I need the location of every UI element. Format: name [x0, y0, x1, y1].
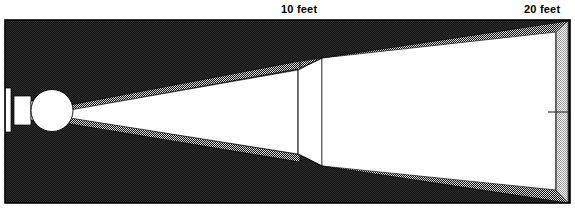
lamp-bulb	[31, 90, 73, 132]
light-beam-spread-illustration	[0, 0, 575, 215]
figure-root: 10 feet 20 feet	[0, 0, 575, 215]
measurement-plane-10ft	[298, 58, 322, 166]
lamp-mount-bar	[5, 88, 11, 132]
lamp-socket	[14, 96, 31, 125]
beam-cone-far-white	[322, 32, 556, 190]
